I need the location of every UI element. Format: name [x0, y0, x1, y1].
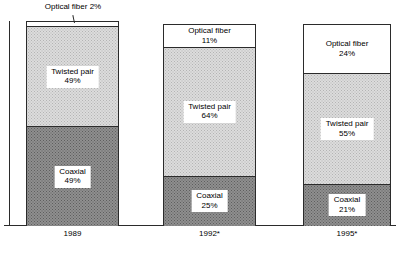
- segment-label-coaxial-1989: Coaxial 49%: [54, 166, 91, 188]
- segment-coaxial-1989[interactable]: Coaxial 49%: [27, 126, 118, 226]
- segment-label-twisted-pair-1995: Twisted pair 55%: [321, 118, 374, 140]
- segment-coaxial-1995[interactable]: Coaxial 21%: [304, 184, 390, 226]
- bar-1992[interactable]: Optical fiber 11% Twisted pair 64% Coaxi…: [163, 24, 256, 225]
- x-tick-label-1992: 1992*: [163, 229, 256, 239]
- bar-1989[interactable]: Twisted pair 49% Coaxial 49%: [26, 21, 119, 225]
- segment-label-twisted-pair-1989: Twisted pair 49%: [46, 66, 99, 88]
- segment-label-optical-fiber-1992: Optical fiber 11%: [183, 25, 236, 47]
- segment-label-optical-fiber-1995: Optical fiber 24%: [321, 38, 374, 60]
- segment-twisted-pair-1992[interactable]: Twisted pair 64%: [164, 47, 255, 176]
- x-tick-label-1995: 1995*: [303, 229, 391, 239]
- bar-1995[interactable]: Optical fiber 24% Twisted pair 55% Coaxi…: [303, 24, 391, 225]
- x-tick-label-1989: 1989: [26, 229, 119, 239]
- callout-optical-fiber-1989: Optical fiber 2%: [32, 2, 114, 12]
- y-axis-line: [9, 21, 10, 225]
- segment-label-twisted-pair-1992: Twisted pair 64%: [183, 101, 236, 123]
- segment-twisted-pair-1989[interactable]: Twisted pair 49%: [27, 26, 118, 126]
- segment-optical-fiber-1992[interactable]: Optical fiber 11%: [164, 25, 255, 47]
- segment-coaxial-1992[interactable]: Coaxial 25%: [164, 176, 255, 226]
- stacked-bar-chart: Twisted pair 49% Coaxial 49% Optical fib…: [0, 0, 404, 253]
- segment-label-coaxial-1992: Coaxial 25%: [191, 190, 228, 212]
- segment-twisted-pair-1995[interactable]: Twisted pair 55%: [304, 73, 390, 184]
- segment-label-coaxial-1995: Coaxial 21%: [329, 194, 366, 216]
- segment-optical-fiber-1995[interactable]: Optical fiber 24%: [304, 25, 390, 73]
